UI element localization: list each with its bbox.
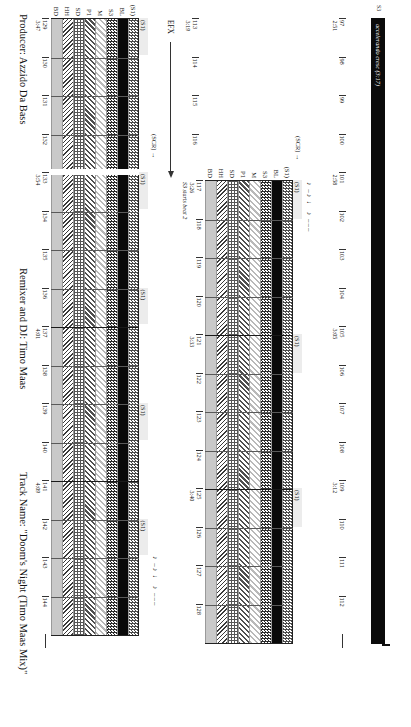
- bar-tick: [339, 480, 346, 481]
- bar-number-trailing-rule: [45, 634, 46, 648]
- staff-system-3: [51, 18, 139, 636]
- lane-label: BD: [208, 160, 215, 178]
- bar-tick: [42, 288, 49, 289]
- bar-line: [205, 451, 293, 452]
- bar-line: [51, 597, 139, 598]
- bar-number: 103: [339, 251, 346, 260]
- s1-tag: (S1): [141, 405, 148, 416]
- s1-tag: (S1): [141, 174, 148, 185]
- accelerando-track-label: S3: [376, 5, 382, 11]
- bar-tick: [196, 604, 203, 605]
- lane-label: S3: [263, 160, 270, 178]
- s1-tag: (S1): [295, 336, 302, 347]
- bar-number: 119: [196, 259, 203, 268]
- bar-tick: [42, 442, 49, 443]
- caption-remixer: Remixer and DJ: Timo Maas: [18, 268, 29, 389]
- bar-tick: [192, 134, 199, 135]
- notation-glyph-row: ♪ –♪ ♩ ♪ –––: [151, 556, 159, 607]
- bar-number: 97: [339, 20, 346, 26]
- bar-number: 117: [196, 182, 203, 191]
- s1-tag: (S1): [141, 20, 148, 31]
- bar-tick: [339, 134, 346, 135]
- scr-marker: (SCR) →: [295, 136, 302, 160]
- bar-number: 124: [196, 452, 203, 461]
- lane-label: (S1): [131, 0, 138, 16]
- bar-tick: [42, 519, 49, 520]
- bar-tick: [192, 18, 199, 19]
- system-break-gap: [50, 169, 150, 175]
- bar-number: 123: [196, 413, 203, 422]
- bar-tick: [192, 95, 199, 96]
- lane-label: (S1): [285, 160, 292, 178]
- bar-number: 131: [42, 97, 49, 106]
- bar-tick: [339, 18, 346, 19]
- bar-number: 134: [42, 213, 49, 222]
- bar-line: [51, 443, 139, 444]
- bar-timecode: 4:01: [35, 329, 41, 340]
- bar-tick: [42, 326, 49, 327]
- bar-tick: [196, 219, 203, 220]
- bar-number: 120: [196, 298, 203, 307]
- bar-tick: [42, 249, 49, 250]
- bar-tick: [42, 134, 49, 135]
- accelerando-end-tick: [382, 644, 390, 646]
- bar-tick: [42, 365, 49, 366]
- bar-tick: [339, 442, 346, 443]
- efx-arrow-head: [169, 171, 175, 178]
- bar-number: 130: [42, 59, 49, 68]
- lane-label: S3: [109, 0, 116, 16]
- score-canvas: accelerando cresc (3:17)S3972:5198991001…: [0, 0, 411, 727]
- bar-number: 112: [339, 598, 346, 607]
- caption-track-name: Track Name: "Doom's Night (Timo Maas Mix…: [18, 472, 29, 674]
- figure-root: accelerando cresc (3:17)S3972:5198991001…: [0, 0, 411, 727]
- bar-tick: [339, 403, 346, 404]
- lane-label: BD: [54, 0, 61, 16]
- s1-tag: (S1): [295, 490, 302, 501]
- bar-number: 114: [192, 59, 199, 68]
- s1-tag: (S1): [295, 182, 302, 193]
- bar-number: 122: [196, 375, 203, 384]
- bar-tick: [339, 249, 346, 250]
- bar-tick: [339, 57, 346, 58]
- bar-timecode: 3:54: [35, 175, 41, 186]
- bar-line: [51, 212, 139, 213]
- bar-number-trailing-rule: [342, 634, 343, 648]
- bar-number: 127: [196, 567, 203, 576]
- bar-line: [205, 412, 293, 413]
- bar-line: [205, 258, 293, 259]
- lane-label: SD: [76, 0, 83, 16]
- s1-tag: (S1): [141, 521, 148, 532]
- bar-tick: [339, 365, 346, 366]
- bar-timecode: 2:58: [332, 175, 338, 186]
- bar-tick: [42, 18, 49, 19]
- s1-tag: (S1): [141, 290, 148, 301]
- bar-timecode: 3:47: [35, 21, 41, 32]
- bar-number: 135: [42, 251, 49, 260]
- bar-number: 100: [339, 136, 346, 145]
- lane-label: P1: [241, 160, 248, 178]
- bar-number: 102: [339, 213, 346, 222]
- bar-number: 101: [339, 174, 346, 183]
- lane-label: M: [98, 0, 105, 16]
- bar-line: [205, 489, 293, 490]
- bar-number: 99: [339, 97, 346, 103]
- bar-number: 125: [196, 490, 203, 499]
- lane-label: BL: [274, 160, 281, 178]
- bar-tick: [42, 557, 49, 558]
- bar-number: 132: [42, 136, 49, 145]
- bar-tick: [196, 527, 203, 528]
- bar-number: 106: [339, 367, 346, 376]
- bar-tick: [339, 557, 346, 558]
- bar-number: 118: [196, 221, 203, 230]
- bar-number: 107: [339, 405, 346, 414]
- lane-label: BL: [120, 0, 127, 16]
- bar-line: [51, 481, 139, 482]
- bar-tick: [196, 450, 203, 451]
- bar-tick: [196, 488, 203, 489]
- bar-number: 98: [339, 59, 346, 65]
- bar-number: 141: [42, 482, 49, 491]
- notation-glyph-row: ♪ –♪ ♩ ♪ –––: [305, 182, 313, 233]
- bar-tick: [339, 596, 346, 597]
- lane-label: HH: [65, 0, 72, 16]
- bar-number: 126: [196, 529, 203, 538]
